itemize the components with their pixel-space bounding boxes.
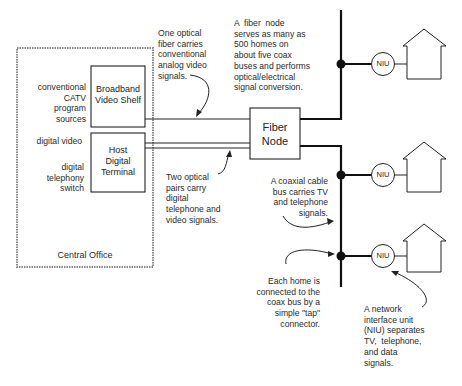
annotation-two-pairs: Two optical pairs carry digital telephon…: [166, 172, 220, 226]
annotation-tap: Each home is connected to the coax bus b…: [248, 276, 320, 330]
house-icon-2: [403, 142, 446, 192]
arrowhead-tap: [328, 251, 335, 257]
arrowhead-coax-bus: [327, 218, 334, 225]
annotation-fiber-node: A fiber node serves as many as 500 homes…: [234, 18, 310, 93]
arrow-niu: [394, 272, 426, 307]
arrowhead-two-pairs: [226, 150, 232, 157]
arrow-tap: [286, 250, 332, 264]
broadband-video-shelf-label: Broadband Video Shelf: [91, 84, 145, 106]
house-icon-1: [403, 29, 446, 79]
annotation-coax-bus: A coaxial cable bus carries TV and telep…: [250, 176, 328, 219]
input-label-digital-video: digital video: [14, 136, 82, 147]
annotation-one-fiber: One optical fiber carries conventional a…: [158, 28, 207, 82]
annotation-niu: A network interface unit (NIU) separates…: [364, 304, 425, 368]
niu-1-label: NIU: [371, 59, 395, 68]
input-label-catv: conventional CATV program sources: [14, 82, 86, 125]
niu-2-label: NIU: [371, 170, 395, 179]
house-icon-3: [403, 224, 446, 272]
niu-3-label: NIU: [371, 251, 395, 260]
input-label-telephony-switch: digital telephony switch: [14, 162, 84, 194]
central-office-label: Central Office: [17, 250, 153, 261]
fiber-node-label: Fiber Node: [250, 120, 300, 148]
host-digital-terminal-label: Host Digital Terminal: [91, 145, 145, 178]
